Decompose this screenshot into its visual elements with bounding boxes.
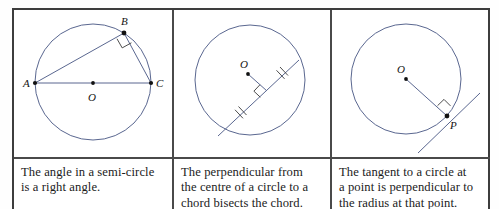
- label-point-P: P: [449, 119, 457, 131]
- label-point-B: B: [121, 15, 128, 27]
- diagram-table: A B C O: [12, 8, 490, 209]
- point-A-dot: [33, 81, 37, 85]
- caption-perpendicular-bisects-chord: The perpendicular from the centre of a c…: [174, 159, 330, 209]
- caption-line: The angle in a semi-circle: [21, 165, 172, 180]
- point-C-dot: [149, 81, 153, 85]
- tick-marks-upper: [277, 67, 289, 79]
- right-angle-mark-foot: [254, 85, 260, 97]
- segment-perpendicular-from-centre: [248, 74, 267, 91]
- diagram-perpendicular-bisects-chord: O: [174, 10, 330, 157]
- point-O-dot: [246, 72, 250, 76]
- caption-line: is a right angle.: [21, 180, 172, 195]
- segment-AB: [35, 33, 124, 83]
- label-point-A: A: [22, 77, 30, 89]
- tick-marks-lower: [235, 107, 247, 119]
- label-point-C: C: [156, 77, 164, 89]
- caption-line: chord bisects the chord.: [181, 196, 330, 209]
- caption-line: The tangent to a circle at: [339, 165, 490, 180]
- segment-BC: [124, 33, 151, 83]
- point-O-dot: [404, 77, 408, 81]
- segment-chord: [218, 60, 299, 136]
- diagram-semicircle-angle: A B C O: [14, 10, 172, 157]
- perpendicular-chord-svg: O: [174, 10, 330, 157]
- semicircle-angle-svg: A B C O: [14, 10, 172, 157]
- diagram-tangent-radius: O P: [332, 10, 490, 157]
- figure-page: A B C O: [0, 0, 499, 209]
- caption-tangent-radius: The tangent to a circle at a point is pe…: [332, 159, 490, 209]
- caption-line: a point is perpendicular to: [339, 180, 490, 195]
- segment-tangent: [418, 93, 480, 153]
- label-point-O: O: [397, 63, 405, 75]
- label-point-O: O: [240, 58, 248, 70]
- right-angle-mark-P: [438, 99, 451, 106]
- point-P-dot: [445, 114, 450, 119]
- caption-line: the centre of a circle to a: [181, 180, 330, 195]
- segment-radius-OP: [406, 79, 447, 116]
- caption-semicircle-angle: The angle in a semi-circle is a right an…: [14, 159, 172, 209]
- label-point-O: O: [88, 91, 96, 103]
- caption-line: the radius at that point.: [339, 196, 490, 209]
- tangent-radius-svg: O P: [332, 10, 490, 157]
- point-B-dot: [122, 31, 127, 36]
- point-O-dot: [91, 81, 95, 85]
- caption-line: The perpendicular from: [181, 165, 330, 180]
- circle-shape: [195, 25, 305, 135]
